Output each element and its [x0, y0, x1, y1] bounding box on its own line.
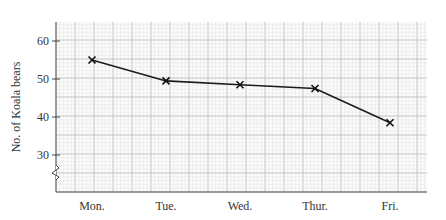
- x-tick-label: Wed.: [228, 199, 253, 213]
- x-tick-label: Mon.: [79, 199, 105, 213]
- line-chart: 30405060 Mon.Tue.Wed.Thur.Fri. No. of Ko…: [0, 0, 446, 220]
- x-tick-label: Fri.: [381, 199, 398, 213]
- y-tick-label: 60: [37, 34, 49, 48]
- x-tick-label: Tue.: [155, 199, 176, 213]
- y-tick-label: 40: [37, 110, 49, 124]
- x-axis-labels: Mon.Tue.Wed.Thur.Fri.: [79, 199, 398, 213]
- y-tick-label: 50: [37, 72, 49, 86]
- y-axis-title: No. of Koala bears: [9, 61, 23, 152]
- graph-paper-grid: [56, 22, 427, 192]
- x-tick-label: Thur.: [302, 199, 328, 213]
- y-tick-label: 30: [37, 148, 49, 162]
